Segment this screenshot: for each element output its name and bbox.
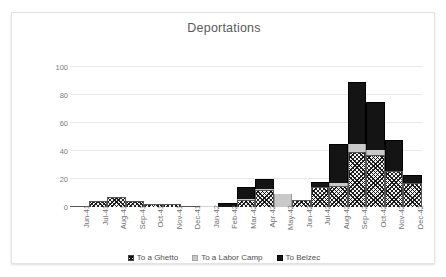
- bar-Aug-42[interactable]: [329, 144, 348, 207]
- x-tick-label: Sep-42: [360, 205, 369, 249]
- screenshot-root: Deportations Number of Deportations 0204…: [0, 0, 446, 277]
- x-tick-label: Apr-42: [268, 205, 277, 249]
- x-tick-label: Mar-42: [249, 205, 258, 249]
- x-tick-label: Jul-41: [101, 205, 110, 249]
- y-tick-label: 80: [38, 91, 68, 100]
- bar-segment-to-belzec: [366, 102, 385, 150]
- legend-swatch-icon: [277, 255, 283, 261]
- y-tick-label: 100: [38, 63, 68, 72]
- legend-item-to-belzec[interactable]: To Belzec: [277, 253, 321, 262]
- x-tick-label: May-42: [286, 205, 295, 249]
- gridline-80: [70, 94, 422, 95]
- legend-item-to-a-labor-camp[interactable]: To a Labor Camp: [192, 253, 262, 262]
- x-tick-label: Sep-41: [138, 205, 147, 249]
- legend-label: To Belzec: [286, 253, 321, 262]
- bar-segment-to-a-ghetto: [348, 152, 367, 207]
- bar-segment-to-belzec: [255, 179, 274, 189]
- bar-segment-to-a-ghetto: [385, 171, 404, 207]
- chart-legend: To a GhettoTo a Labor CampTo Belzec: [12, 253, 436, 262]
- bar-Nov-42[interactable]: [385, 140, 404, 207]
- bar-Apr-42[interactable]: [255, 179, 274, 207]
- bar-segment-to-belzec: [385, 140, 404, 171]
- y-tick-label: 60: [38, 119, 68, 128]
- x-tick-label: Oct-41: [156, 205, 165, 249]
- bar-Oct-42[interactable]: [366, 102, 385, 207]
- gridline-100: [70, 66, 422, 67]
- bar-segment-to-belzec: [403, 175, 422, 183]
- x-tick-label: Jul-42: [323, 205, 332, 249]
- y-tick-label: 0: [38, 203, 68, 212]
- x-tick-label: Jun-41: [82, 205, 91, 249]
- bar-Sep-42[interactable]: [348, 82, 367, 207]
- legend-swatch-icon: [192, 255, 198, 261]
- x-axis-tick-labels: Jun-41Jul-41Aug-41Sep-41Oct-41Nov-41Dec-…: [70, 209, 422, 253]
- y-axis-tick-labels: 020406080100: [38, 61, 68, 213]
- bar-segment-to-a-ghetto: [366, 155, 385, 207]
- bar-segment-to-belzec: [348, 82, 367, 144]
- x-tick-label: Aug-42: [342, 205, 351, 249]
- x-tick-label: Jun-42: [305, 205, 314, 249]
- bar-segment-to-a-ghetto: [403, 183, 422, 207]
- chart-title: Deportations: [12, 21, 436, 35]
- y-tick-label: 40: [38, 147, 68, 156]
- bar-segment-to-belzec: [329, 144, 348, 183]
- bar-Dec-42[interactable]: [403, 175, 422, 207]
- y-tick-label: 20: [38, 175, 68, 184]
- legend-label: To a Ghetto: [137, 253, 178, 262]
- bar-segment-to-a-ghetto: [329, 186, 348, 207]
- x-tick-label: Dec-42: [416, 205, 425, 249]
- bar-segment-to-a-labor-camp: [348, 144, 367, 152]
- x-tick-label: Jan-42: [212, 205, 221, 249]
- chart-card: Deportations Number of Deportations 0204…: [11, 12, 435, 264]
- x-tick-label: Aug-41: [119, 205, 128, 249]
- x-tick-label: Feb-42: [230, 205, 239, 249]
- legend-swatch-icon: [128, 255, 134, 261]
- legend-label: To a Labor Camp: [201, 253, 262, 262]
- bar-Jul-42[interactable]: [311, 182, 330, 207]
- x-tick-label: Dec-41: [193, 205, 202, 249]
- plot-area: [70, 67, 422, 207]
- x-tick-label: Oct-42: [379, 205, 388, 249]
- x-tick-label: Nov-41: [175, 205, 184, 249]
- legend-item-to-a-ghetto[interactable]: To a Ghetto: [128, 253, 178, 262]
- bar-segment-to-belzec: [237, 187, 256, 198]
- x-tick-label: Nov-42: [397, 205, 406, 249]
